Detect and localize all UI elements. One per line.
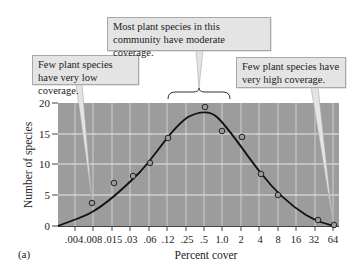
svg-text:2: 2 [238, 234, 243, 245]
svg-text:.015: .015 [104, 234, 122, 245]
svg-text:.03: .03 [124, 234, 137, 245]
data-point [89, 200, 95, 206]
data-point [202, 104, 208, 110]
data-point [331, 222, 337, 228]
svg-text:4: 4 [257, 234, 263, 245]
y-axis-label: Number of species [22, 121, 35, 208]
data-point [239, 134, 245, 140]
x-tick-labels: .004 .008 .015 .03 .06 .12 .25 .5 1.0 2 … [65, 234, 339, 245]
svg-text:15: 15 [39, 128, 51, 140]
data-point [219, 128, 225, 134]
data-point [111, 180, 117, 186]
low-coverage-callout: Few plant species have very low coverage… [32, 55, 139, 85]
data-point [258, 171, 264, 177]
svg-text:5: 5 [45, 189, 51, 201]
x-axis-label: Percent cover [175, 249, 238, 261]
svg-text:8: 8 [275, 234, 280, 245]
svg-text:.12: .12 [161, 234, 174, 245]
svg-text:32: 32 [309, 234, 320, 245]
data-point [165, 135, 171, 141]
svg-text:20: 20 [39, 97, 51, 109]
svg-text:10: 10 [39, 158, 51, 170]
svg-text:0: 0 [45, 220, 51, 232]
svg-text:.008: .008 [84, 234, 102, 245]
moderate-coverage-callout: Most plant species in this community hav… [107, 17, 271, 51]
svg-text:16: 16 [291, 234, 302, 245]
svg-text:.004: .004 [65, 234, 84, 245]
data-point [275, 192, 281, 198]
high-coverage-callout: Few plant species have very high coverag… [236, 57, 346, 88]
svg-text:64: 64 [328, 234, 339, 245]
moderate-coverage-brace [168, 88, 230, 99]
y-tick-labels: 20 15 10 5 0 [39, 97, 51, 232]
svg-text:.5: .5 [200, 234, 208, 245]
svg-text:1.0: 1.0 [215, 234, 228, 245]
data-point [130, 173, 136, 179]
panel-label: (a) [18, 248, 31, 261]
svg-text:.06: .06 [143, 234, 156, 245]
center-callout-pointer [196, 50, 203, 88]
y-axis-ticks [52, 103, 58, 226]
data-point [147, 160, 153, 166]
svg-text:.25: .25 [180, 234, 193, 245]
data-point [315, 217, 321, 223]
